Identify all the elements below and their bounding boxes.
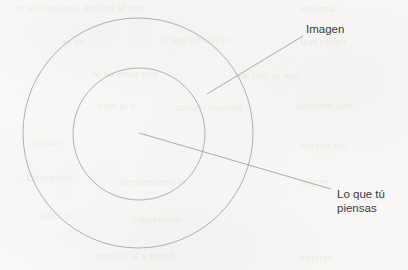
outer-circle <box>23 18 253 248</box>
label-lo-que-tu-piensas: Lo que tú piensas <box>337 188 385 215</box>
pensamiento-leader-line <box>139 133 331 189</box>
label-imagen-text: Imagen <box>306 23 344 35</box>
diagram-page: que la imagen concentrada enla menteno e… <box>0 0 408 270</box>
label-imagen: Imagen <box>306 23 344 37</box>
label-pensamiento-line2: piensas <box>337 202 385 216</box>
imagen-leader-line <box>207 36 303 94</box>
inner-circle <box>73 68 205 200</box>
label-pensamiento-line1: Lo que tú <box>337 188 385 200</box>
diagram-canvas <box>0 0 408 270</box>
